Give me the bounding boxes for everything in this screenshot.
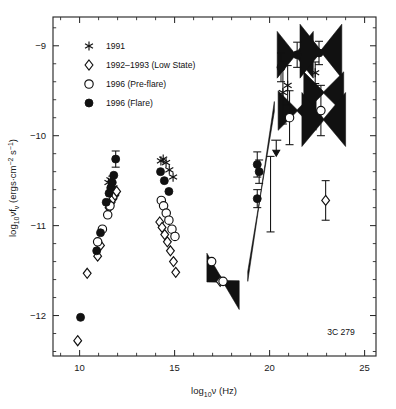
marker-filled-circle [93, 247, 101, 255]
plot-frame-rect [53, 17, 376, 356]
marker-filled-circle [77, 313, 85, 321]
svg-text:log10ν (Hz): log10ν (Hz) [191, 385, 237, 398]
marker-filled-circle [108, 178, 116, 186]
y-axis-title-sup2: −1 [7, 142, 14, 150]
marker-open-circle [165, 216, 173, 224]
x-axis-title-rest: ν (Hz) [212, 385, 237, 396]
x-axis-title: log10ν (Hz) [191, 385, 237, 398]
x-tick-label: 20 [264, 362, 275, 373]
marker-filled-circle [160, 177, 168, 185]
y-axis-title-sup: −2 [7, 157, 14, 165]
y-axis-title: log10νfν (ergs·cm−2 s−1) [7, 139, 20, 237]
y-axis-title-a: log [7, 224, 18, 237]
marker-filled-circle [253, 160, 261, 168]
y-axis-title-e: ) [7, 139, 18, 142]
x-tick-label: 15 [169, 362, 180, 373]
marker-filled-circle [110, 171, 118, 179]
x-axis-title-main: log [191, 385, 204, 396]
marker-filled-circle [97, 229, 105, 237]
y-tick-label: −9 [35, 40, 46, 51]
marker-filled-circle [253, 195, 261, 203]
marker-asterisk [169, 172, 177, 181]
upper-limit-arrow [271, 140, 281, 156]
marker-asterisk [85, 41, 93, 50]
bowtie-markers [207, 24, 346, 309]
legend-label: 1992–1993 (Low State) [106, 60, 195, 70]
marker-filled-circle [102, 198, 110, 206]
marker-open-diamond [83, 268, 91, 278]
marker-open-circle [171, 232, 179, 240]
marker-open-diamond [74, 336, 82, 346]
plot-frame [53, 17, 376, 356]
marker-open-circle [219, 277, 227, 285]
marker-filled-circle [157, 168, 165, 176]
marker-open-circle [207, 257, 215, 265]
sed-figure: 10152025−9−10−11−12 19911992–1993 (Low S… [0, 0, 396, 409]
legend-label: 1991 [106, 41, 125, 51]
data-points [74, 49, 330, 346]
series-filled-circle [77, 49, 323, 321]
y-axis-title-c: (ergs·cm [7, 165, 18, 205]
marker-open-circle [93, 238, 101, 246]
marker-filled-circle [112, 155, 120, 163]
marker-filled-circle [255, 168, 263, 176]
y-axis-title-sub: 10 [13, 216, 20, 224]
legend-item-2: 1996 (Pre-flare) [85, 79, 167, 89]
legend-item-1: 1992–1993 (Low State) [85, 60, 195, 70]
marker-open-circle [285, 114, 293, 122]
legend: 19911992–1993 (Low State)1996 (Pre-flare… [85, 41, 196, 108]
x-tick-label: 10 [74, 362, 85, 373]
marker-open-circle [104, 211, 112, 219]
error-bar [267, 156, 275, 232]
y-tick-label: −12 [30, 310, 46, 321]
gamma-bowtie-5 [302, 93, 346, 147]
marker-filled-circle [293, 51, 301, 59]
marker-open-diamond [170, 257, 178, 267]
marker-open-circle [317, 106, 325, 114]
marker-open-diamond [172, 267, 180, 277]
legend-label: 1996 (Pre-flare) [106, 79, 166, 89]
marker-open-diamond [322, 195, 330, 205]
source-annotation: 3C 279 [327, 327, 355, 337]
marker-filled-circle [165, 187, 173, 195]
y-tick-label: −10 [30, 130, 46, 141]
series-open-circle [93, 106, 325, 285]
legend-label: 1996 (Flare) [106, 98, 153, 108]
marker-filled-circle [85, 99, 93, 107]
marker-filled-circle [315, 49, 323, 57]
axis-ticks [53, 17, 376, 356]
legend-item-0: 1991 [85, 41, 125, 51]
x-axis-title-sub: 10 [204, 391, 212, 398]
marker-open-circle [85, 80, 93, 88]
upper-limit-arrows [271, 140, 281, 156]
marker-filled-circle [277, 63, 285, 71]
legend-item-3: 1996 (Flare) [85, 98, 153, 108]
marker-open-diamond [85, 60, 93, 70]
series-open-diamond [74, 186, 330, 345]
x-tick-label: 25 [359, 362, 370, 373]
svg-text:log10νfν (ergs·cm−2 s−1): log10νfν (ergs·cm−2 s−1) [7, 139, 20, 237]
y-tick-label: −11 [31, 220, 46, 231]
